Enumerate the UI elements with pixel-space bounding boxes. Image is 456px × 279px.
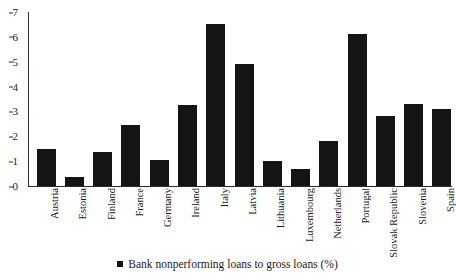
bar[interactable]	[291, 169, 310, 186]
x-axis: AustriaEstoniaFinlandFranceGermanyIrelan…	[28, 188, 452, 250]
legend-swatch-icon	[117, 261, 123, 267]
bar-group[interactable]	[263, 161, 282, 186]
y-tick-mark	[9, 87, 13, 88]
bar[interactable]	[206, 24, 225, 186]
x-tick-label: Spain	[446, 188, 456, 212]
y-tick-mark	[9, 62, 13, 63]
x-tick-label: Austria	[50, 188, 61, 219]
bar-group[interactable]	[65, 177, 84, 186]
y-tick-mark	[9, 186, 13, 187]
chart-legend: Bank nonperforming loans to gross loans …	[0, 258, 455, 270]
y-axis: 01234567	[0, 12, 24, 187]
bar-group[interactable]	[404, 104, 423, 186]
bar-group[interactable]	[206, 24, 225, 186]
bar-group[interactable]	[93, 152, 112, 186]
bar[interactable]	[263, 161, 282, 186]
bar[interactable]	[432, 109, 451, 186]
x-tick-label: Portugal	[361, 188, 372, 224]
y-tick-label: 7	[13, 7, 19, 18]
bar-group[interactable]	[348, 34, 367, 186]
bar[interactable]	[348, 34, 367, 186]
bar-group[interactable]	[150, 160, 169, 186]
plot-area	[28, 12, 452, 187]
bar-group[interactable]	[235, 64, 254, 186]
bar-group[interactable]	[121, 125, 140, 186]
y-tick-mark	[9, 161, 13, 162]
x-tick-label: Finland	[107, 188, 118, 220]
bars-layer	[28, 12, 452, 187]
x-tick-label: Lithuania	[276, 188, 287, 228]
x-tick-label: Slovenia	[418, 188, 429, 225]
bar-group[interactable]	[376, 116, 395, 186]
x-tick-label: Italy	[220, 188, 231, 207]
x-tick-label: Estonia	[78, 188, 89, 220]
y-tick-mark	[9, 111, 13, 112]
bar[interactable]	[150, 160, 169, 186]
x-tick-label: Netherlands	[333, 188, 344, 239]
bar-group[interactable]	[432, 109, 451, 186]
bar[interactable]	[37, 149, 56, 186]
x-tick-label: Germany	[163, 188, 174, 227]
x-tick-label: Latvia	[248, 188, 259, 215]
x-tick-label: Ireland	[191, 188, 202, 218]
bar[interactable]	[319, 141, 338, 186]
legend-label: Bank nonperforming loans to gross loans …	[128, 258, 338, 270]
y-tick-mark	[9, 136, 13, 137]
y-tick-label: 1	[13, 156, 19, 167]
bar[interactable]	[376, 116, 395, 186]
y-tick-label: 4	[13, 81, 19, 92]
x-tick-label: Slovak Republic	[389, 188, 400, 258]
y-tick-mark	[9, 37, 13, 38]
x-tick-label: France	[135, 188, 146, 217]
bar-group[interactable]	[291, 169, 310, 186]
y-tick-label: 3	[13, 106, 19, 117]
bar[interactable]	[65, 177, 84, 186]
y-tick-label: 5	[13, 56, 19, 67]
y-tick-mark	[9, 12, 13, 13]
bar-group[interactable]	[178, 105, 197, 186]
bar-group[interactable]	[37, 149, 56, 186]
y-tick-label: 6	[13, 31, 19, 42]
bar[interactable]	[93, 152, 112, 186]
bar[interactable]	[121, 125, 140, 186]
bar[interactable]	[178, 105, 197, 186]
bar-group[interactable]	[319, 141, 338, 186]
y-tick-label: 0	[13, 181, 19, 192]
bar[interactable]	[235, 64, 254, 186]
y-tick-label: 2	[13, 131, 19, 142]
x-tick-label: Luxembourg	[305, 188, 316, 242]
bar[interactable]	[404, 104, 423, 186]
